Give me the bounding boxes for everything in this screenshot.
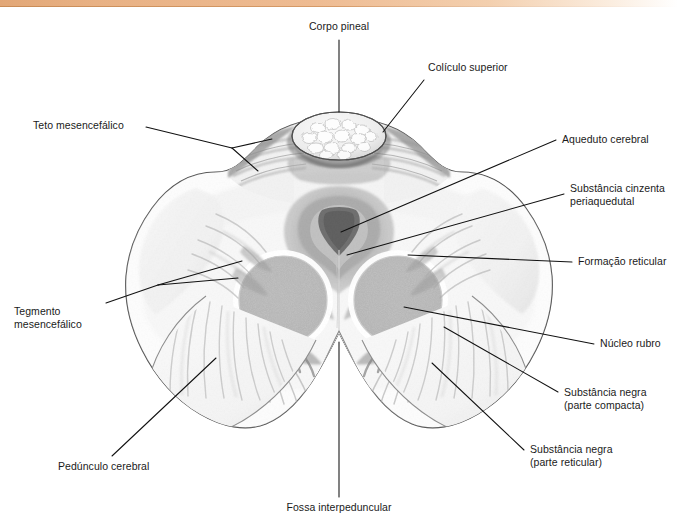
label-pedunculo-cerebral: Pedúnculo cerebral bbox=[58, 460, 149, 473]
label-tegmento-mesencefalico: Tegmento mesencefálico bbox=[14, 305, 82, 330]
diagram-page: Corpo pineal Colículo superior Aqueduto … bbox=[0, 0, 678, 529]
label-teto-mesencefalico: Teto mesencefálico bbox=[33, 119, 124, 132]
leader-coliculo-superior bbox=[383, 80, 424, 132]
label-nucleo-rubro: Núcleo rubro bbox=[600, 337, 661, 350]
label-substancia-negra-reticular: Substância negra (parte reticular) bbox=[530, 443, 613, 468]
label-substancia-negra-compacta: Substância negra (parte compacta) bbox=[564, 386, 647, 411]
leader-teto-trunk bbox=[146, 127, 232, 148]
label-corpo-pineal: Corpo pineal bbox=[258, 20, 420, 33]
label-aqueduto-cerebral: Aqueduto cerebral bbox=[562, 133, 649, 146]
label-substancia-cinzenta-periaquedutal: Substância cinzenta periaquedutal bbox=[570, 182, 665, 207]
label-formacao-reticular: Formação reticular bbox=[578, 255, 666, 268]
label-coliculo-superior: Colículo superior bbox=[428, 61, 508, 74]
label-fossa-interpeduncular: Fossa interpeduncular bbox=[258, 501, 420, 514]
pineal-body bbox=[287, 112, 391, 168]
